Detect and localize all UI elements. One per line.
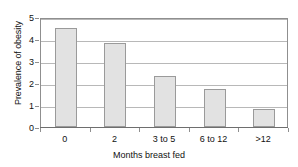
bar-chart-figure: Prevalence of obesity 012345 023 to 56 t… — [0, 0, 298, 167]
x-tick-label: 2 — [112, 134, 117, 144]
x-tick-mark — [288, 128, 289, 132]
y-tick-label: 1 — [22, 102, 34, 111]
x-axis-line — [40, 127, 288, 128]
bar — [104, 43, 126, 127]
y-tick-mark — [35, 40, 39, 41]
y-tick-label: 3 — [22, 58, 34, 67]
y-tick-mark — [35, 18, 39, 19]
y-tick-mark — [35, 62, 39, 63]
x-tick-mark — [40, 128, 41, 132]
x-tick-label: 6 to 12 — [200, 134, 228, 144]
bar-series — [41, 19, 287, 127]
x-tick-mark — [139, 128, 140, 132]
bar — [204, 89, 226, 128]
y-axis-ticks: 012345 — [22, 18, 34, 128]
x-tick-label: 0 — [62, 134, 67, 144]
y-tick-label: 0 — [22, 124, 34, 133]
bar — [253, 109, 275, 127]
bar — [154, 76, 176, 127]
y-tick-label: 2 — [22, 80, 34, 89]
x-tick-mark — [90, 128, 91, 132]
y-tick-mark — [35, 128, 39, 129]
plot-area — [40, 18, 288, 128]
x-axis-title: Months breast fed — [0, 150, 298, 160]
y-tick-mark — [35, 106, 39, 107]
y-tick-mark — [35, 84, 39, 85]
x-tick-label: >12 — [256, 134, 271, 144]
x-tick-mark — [189, 128, 190, 132]
y-tick-label: 5 — [22, 14, 34, 23]
x-tick-mark — [238, 128, 239, 132]
bar — [55, 28, 77, 127]
x-tick-label: 3 to 5 — [153, 134, 176, 144]
y-tick-label: 4 — [22, 36, 34, 45]
